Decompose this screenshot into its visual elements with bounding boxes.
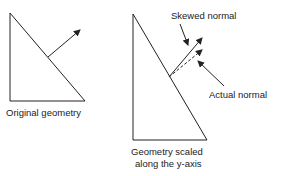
scaled-geometry-figure: Skewed normal Actual normal Geometry sca…	[131, 10, 267, 169]
normals-diagram: Original geometry Skewed normal Actual n…	[0, 0, 282, 176]
scaled-geometry-caption-line2: along the y-axis	[135, 158, 202, 169]
scaled-geometry-caption-line1: Geometry scaled	[131, 146, 203, 157]
actual-normal-leader	[198, 61, 224, 86]
skewed-normal-leader	[180, 24, 188, 45]
original-normal-arrow	[48, 30, 80, 57]
original-geometry-caption: Original geometry	[6, 107, 81, 118]
original-geometry-figure: Original geometry	[6, 13, 85, 118]
skewed-normal-label: Skewed normal	[171, 10, 236, 21]
scaled-triangle	[133, 14, 207, 140]
skewed-normal-arrow	[169, 38, 202, 77]
actual-normal-arrow	[169, 50, 202, 77]
original-triangle	[10, 13, 85, 101]
actual-normal-label: Actual normal	[209, 89, 267, 100]
